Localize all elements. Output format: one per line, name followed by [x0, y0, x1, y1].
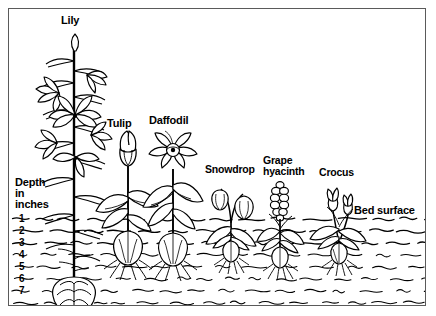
depth-tick-3: 3: [19, 238, 25, 248]
plant-label-lily: Lily: [61, 15, 79, 26]
plant-label-snowdrop: Snowdrop: [205, 164, 255, 175]
depth-tick-5: 5: [19, 262, 25, 272]
plant-label-crocus: Crocus: [319, 167, 354, 178]
plant-label-grape-hyacinth: Grape hyacinth: [263, 155, 305, 176]
diagram-frame: Depthininches 1 2 3 4 5 6 7 Bed surface …: [8, 8, 426, 306]
plant-crocus: [303, 179, 375, 284]
plant-label-tulip: Tulip: [107, 118, 131, 129]
depth-tick-2: 2: [19, 226, 25, 236]
depth-tick-6: 6: [19, 274, 25, 284]
depth-tick-7: 7: [19, 286, 25, 296]
depth-tick-4: 4: [19, 250, 25, 260]
depth-tick-1: 1: [19, 214, 25, 224]
plant-label-daffodil: Daffodil: [149, 115, 188, 126]
